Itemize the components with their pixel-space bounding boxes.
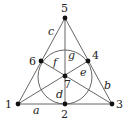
point-1 bbox=[16, 102, 21, 107]
line-label-g: g bbox=[68, 49, 75, 62]
point-label-3: 3 bbox=[116, 98, 123, 111]
point-3 bbox=[110, 102, 115, 107]
line-label-d: d bbox=[56, 88, 63, 101]
point-label-2: 2 bbox=[61, 108, 68, 121]
fano-plane-diagram: 1 2 3 4 5 6 7 a b c d e f g bbox=[0, 0, 130, 123]
point-label-5: 5 bbox=[61, 2, 68, 15]
point-label-7: 7 bbox=[64, 78, 71, 91]
point-5 bbox=[63, 16, 68, 21]
point-label-1: 1 bbox=[5, 98, 12, 111]
line-label-a: a bbox=[33, 104, 40, 117]
line-label-b: b bbox=[104, 79, 111, 92]
line-e bbox=[41, 61, 112, 104]
line-label-f: f bbox=[52, 56, 59, 69]
line-label-e: e bbox=[80, 66, 87, 79]
point-label-6: 6 bbox=[29, 55, 36, 68]
point-6 bbox=[39, 59, 44, 64]
point-4 bbox=[86, 59, 91, 64]
line-label-c: c bbox=[48, 25, 54, 38]
point-label-4: 4 bbox=[92, 49, 99, 62]
point-2 bbox=[63, 102, 68, 107]
